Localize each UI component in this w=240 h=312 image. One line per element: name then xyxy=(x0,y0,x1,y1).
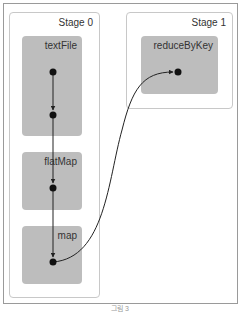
node-dot-map xyxy=(50,259,57,266)
node-dot-textfile-1 xyxy=(50,112,57,119)
node-dot-flatmap xyxy=(50,185,57,192)
figure-caption: 그림 3 xyxy=(0,303,240,312)
node-dot-reducebykey xyxy=(175,69,182,76)
node-dot-textfile-0 xyxy=(50,69,57,76)
edge-map-to-reducebykey xyxy=(53,72,173,262)
dag-edges xyxy=(0,0,240,312)
